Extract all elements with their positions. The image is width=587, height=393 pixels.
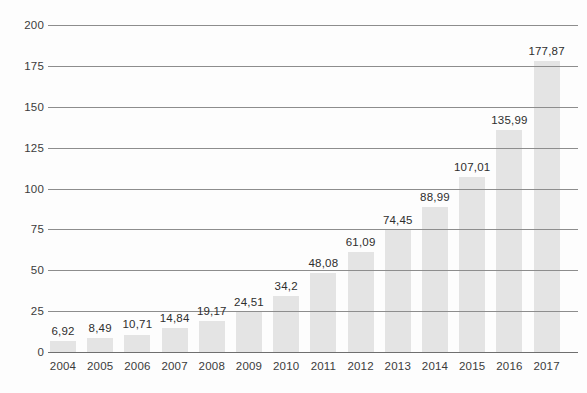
y-axis-tick-label: 125: [10, 142, 44, 154]
y-axis-tick-label: 175: [10, 60, 44, 72]
bar-2010: [273, 296, 299, 352]
gridline: [48, 229, 578, 230]
bar-2011: [310, 273, 336, 352]
bar-2017: [534, 61, 560, 352]
gridline: [48, 107, 578, 108]
bar-2008: [199, 321, 225, 352]
plot-area: 6,928,4910,7114,8419,1724,5134,248,0861,…: [48, 25, 578, 352]
gridline: [48, 311, 578, 312]
bar-2006: [124, 335, 150, 353]
gridline: [48, 270, 578, 271]
axis-baseline: [48, 352, 578, 353]
y-axis-tick-label: 100: [10, 183, 44, 195]
x-axis-tick-label-2017: 2017: [515, 360, 579, 372]
y-axis-tick-label: 0: [10, 346, 44, 358]
bar-2013: [385, 230, 411, 352]
bar-chart: 6,928,4910,7114,8419,1724,5134,248,0861,…: [0, 0, 587, 393]
bar-2007: [162, 328, 188, 352]
bar-2015: [459, 177, 485, 352]
gridline: [48, 189, 578, 190]
y-axis-tick-label: 75: [10, 223, 44, 235]
y-axis-tick-label: 25: [10, 305, 44, 317]
gridline: [48, 25, 578, 26]
y-axis-tick-label: 50: [10, 264, 44, 276]
y-axis-tick-label: 150: [10, 101, 44, 113]
gridline: [48, 148, 578, 149]
bar-2016: [496, 130, 522, 352]
x-axis: 2004200520062007200820092010201120122013…: [48, 360, 578, 382]
bar-2005: [87, 338, 113, 352]
gridline: [48, 66, 578, 67]
y-axis-tick-label: 200: [10, 19, 44, 31]
bar-2009: [236, 312, 262, 352]
bar-2012: [348, 252, 374, 352]
bar-2004: [50, 341, 76, 352]
bar-2014: [422, 207, 448, 352]
